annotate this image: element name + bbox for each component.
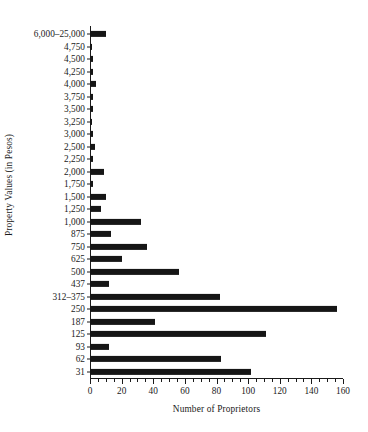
bar bbox=[90, 206, 101, 212]
bar bbox=[90, 106, 93, 112]
x-tick-label: 60 bbox=[180, 386, 189, 397]
bar bbox=[90, 169, 104, 175]
y-tick-label: 875 bbox=[71, 229, 85, 239]
y-tick-label: 125 bbox=[71, 329, 85, 339]
x-tick-minor bbox=[201, 379, 202, 382]
plot-area bbox=[90, 28, 343, 378]
y-tick-label: 2,250 bbox=[64, 154, 85, 164]
x-tick-minor bbox=[193, 379, 194, 382]
x-tick-minor bbox=[303, 379, 304, 382]
bar bbox=[90, 44, 92, 50]
y-tick-label: 31 bbox=[76, 367, 85, 377]
bar bbox=[90, 56, 93, 62]
y-tick-label: 93 bbox=[76, 342, 85, 352]
x-tick-minor bbox=[240, 379, 241, 382]
bar bbox=[90, 156, 93, 162]
y-axis-title-text: Property Values (in Pesos) bbox=[4, 134, 14, 236]
x-tick-major bbox=[185, 379, 186, 384]
bar bbox=[90, 194, 106, 200]
bar bbox=[90, 281, 109, 287]
x-tick-label: 80 bbox=[212, 386, 221, 397]
bar bbox=[90, 356, 221, 362]
x-tick-label: 0 bbox=[88, 386, 93, 397]
bar bbox=[90, 94, 93, 100]
y-tick-label: 2,500 bbox=[64, 142, 85, 152]
x-tick-major bbox=[217, 379, 218, 384]
x-tick-major bbox=[280, 379, 281, 384]
y-tick-label: 250 bbox=[71, 304, 85, 314]
x-tick-minor bbox=[145, 379, 146, 382]
y-tick-label: 1,000 bbox=[64, 217, 85, 227]
bar bbox=[90, 119, 92, 125]
x-tick-minor bbox=[106, 379, 107, 382]
y-tick-label: 500 bbox=[71, 267, 85, 277]
bar-chart-figure: Property Values (in Pesos) 6,000–25,0004… bbox=[0, 0, 368, 432]
x-tick-minor bbox=[98, 379, 99, 382]
bar bbox=[90, 344, 109, 350]
y-tick-label: 437 bbox=[71, 279, 85, 289]
y-tick-label: 625 bbox=[71, 254, 85, 264]
y-tick-label: 3,250 bbox=[64, 117, 85, 127]
y-tick-label: 4,500 bbox=[64, 54, 85, 64]
x-tick-minor bbox=[137, 379, 138, 382]
x-tick-label: 160 bbox=[336, 386, 350, 397]
y-tick-label: 3,000 bbox=[64, 129, 85, 139]
x-tick-minor bbox=[264, 379, 265, 382]
x-tick-label: 20 bbox=[117, 386, 126, 397]
bar bbox=[90, 256, 122, 262]
y-tick-label: 3,750 bbox=[64, 92, 85, 102]
x-tick-minor bbox=[169, 379, 170, 382]
bar bbox=[90, 219, 141, 225]
y-tick-label: 187 bbox=[71, 317, 85, 327]
x-tick-minor bbox=[327, 379, 328, 382]
x-tick-minor bbox=[224, 379, 225, 382]
y-tick-label: 2,000 bbox=[64, 167, 85, 177]
x-tick-major bbox=[153, 379, 154, 384]
bar bbox=[90, 269, 179, 275]
x-tick-major bbox=[122, 379, 123, 384]
x-tick-minor bbox=[232, 379, 233, 382]
y-tick-label: 4,000 bbox=[64, 79, 85, 89]
x-tick-minor bbox=[209, 379, 210, 382]
x-tick-major bbox=[248, 379, 249, 384]
x-tick-major bbox=[90, 379, 91, 384]
bar bbox=[90, 181, 93, 187]
y-axis-spine bbox=[90, 26, 91, 378]
bar bbox=[90, 331, 266, 337]
x-axis-title: Number of Proprietors bbox=[90, 404, 343, 414]
x-tick-minor bbox=[161, 379, 162, 382]
y-tick-label: 1,250 bbox=[64, 204, 85, 214]
x-tick-label: 140 bbox=[304, 386, 318, 397]
bar bbox=[90, 319, 155, 325]
y-tick-label: 3,500 bbox=[64, 104, 85, 114]
y-tick-label: 1,750 bbox=[64, 179, 85, 189]
y-tick-label: 4,750 bbox=[64, 42, 85, 52]
y-tick-label: 312–375 bbox=[52, 292, 85, 302]
x-tick-major bbox=[311, 379, 312, 384]
y-tick-label: 62 bbox=[76, 354, 85, 364]
x-tick-minor bbox=[130, 379, 131, 382]
bar bbox=[90, 131, 93, 137]
bar bbox=[90, 31, 106, 37]
bar bbox=[90, 81, 96, 87]
y-tick-label: 6,000–25,000 bbox=[34, 29, 85, 39]
x-tick-minor bbox=[319, 379, 320, 382]
bar bbox=[90, 144, 95, 150]
bar bbox=[90, 294, 220, 300]
bar bbox=[90, 306, 337, 312]
y-tick-label: 750 bbox=[71, 242, 85, 252]
y-axis-tick-labels: 6,000–25,0004,7504,5004,2504,0003,7503,5… bbox=[16, 28, 88, 378]
x-tick-minor bbox=[272, 379, 273, 382]
x-tick-minor bbox=[296, 379, 297, 382]
x-tick-major bbox=[343, 379, 344, 384]
x-tick-label: 100 bbox=[241, 386, 255, 397]
y-tick-label: 4,250 bbox=[64, 67, 85, 77]
y-tick-label: 1,500 bbox=[64, 192, 85, 202]
bar bbox=[90, 244, 147, 250]
x-tick-label: 120 bbox=[273, 386, 287, 397]
x-tick-minor bbox=[288, 379, 289, 382]
bar bbox=[90, 231, 111, 237]
x-tick-label: 40 bbox=[149, 386, 158, 397]
x-tick-minor bbox=[114, 379, 115, 382]
x-tick-minor bbox=[335, 379, 336, 382]
